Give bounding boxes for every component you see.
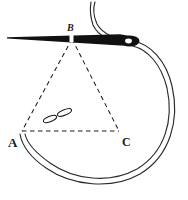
vertex-label-a: A	[8, 136, 17, 149]
figure-root: A B C	[0, 0, 188, 200]
needle-eye-hole	[125, 39, 132, 44]
needle-pierce-gap	[70, 34, 74, 43]
stitch-diagram-svg	[0, 0, 188, 200]
vertex-label-b: B	[67, 23, 74, 33]
diagram-background	[0, 0, 188, 200]
vertex-label-c: C	[122, 136, 131, 148]
